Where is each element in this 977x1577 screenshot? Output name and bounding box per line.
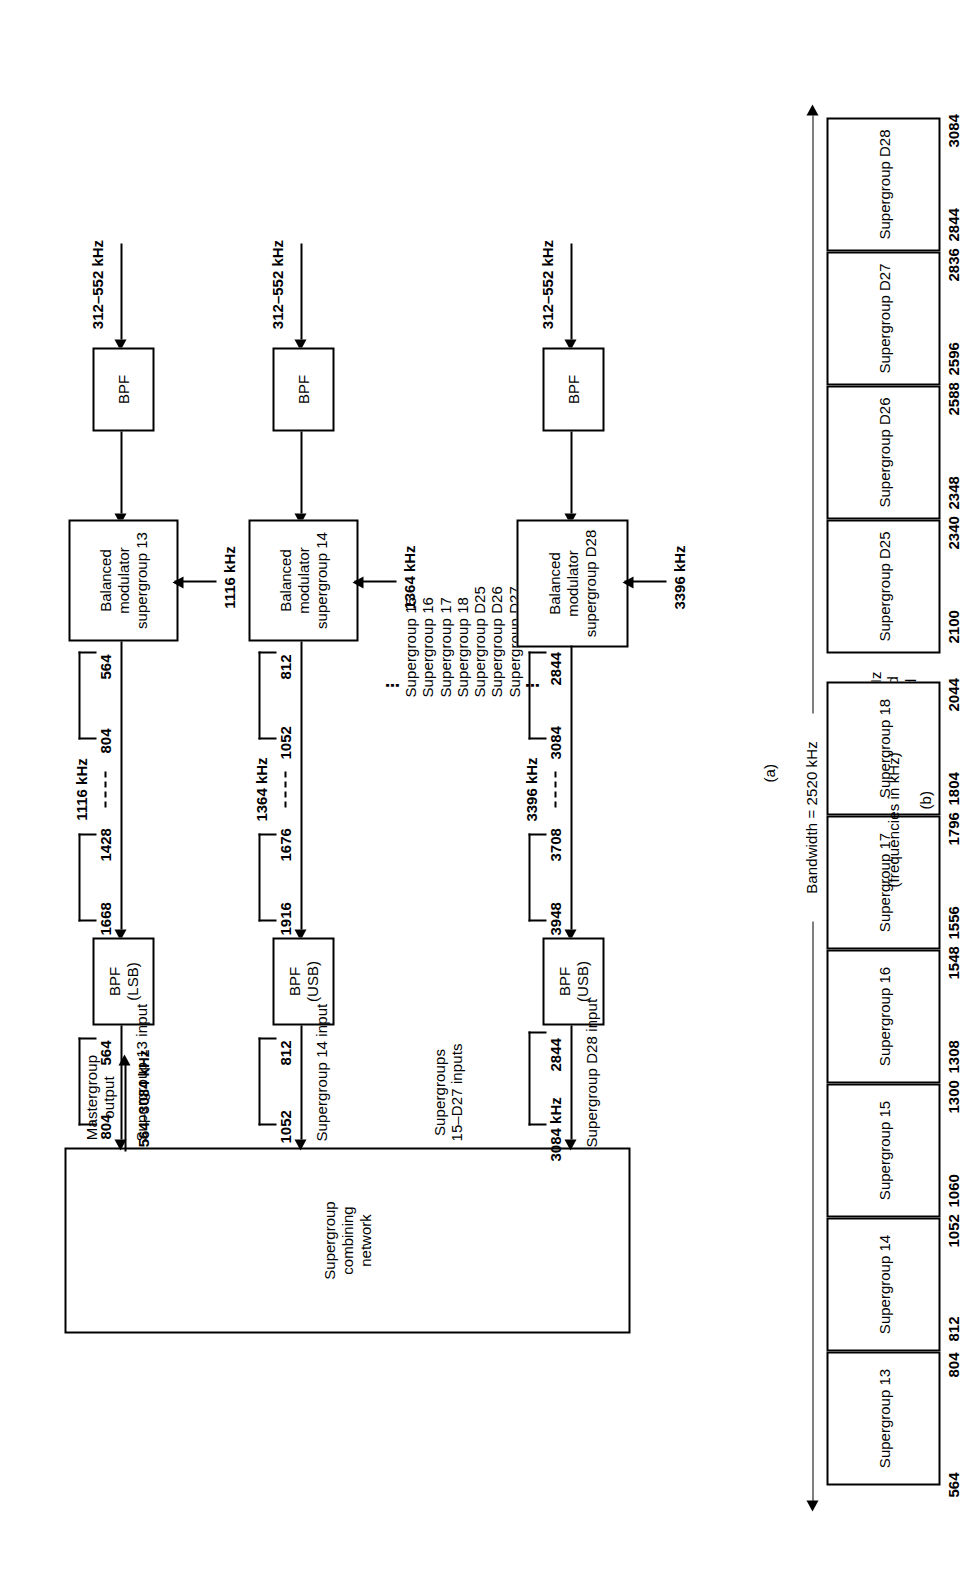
sgD28-lsb-low: 2844 <box>546 652 563 685</box>
spectrum-low-freq: 564 <box>944 1472 961 1497</box>
sg13-bpf-out-label: BPF (LSB) <box>105 962 140 1000</box>
spectrum-low-freq: 2596 <box>944 342 961 375</box>
sgD28-out-bracket <box>528 1031 546 1125</box>
sg14-lsb-high: 1052 <box>276 726 293 759</box>
spectrum-block: Supergroup D28 <box>826 117 940 251</box>
bandwidth-arrow-right <box>806 104 818 115</box>
spectrum-block-label: Supergroup 16 <box>875 966 892 1065</box>
spectrum-block-label: Supergroup D26 <box>875 397 892 507</box>
sgD28-usb-low: 3708 <box>546 828 563 861</box>
sg13-output-label: Supergroup 13 input <box>132 1003 149 1141</box>
sg14-carrier-arrowhead <box>352 576 363 588</box>
spectrum-high-freq: 2836 <box>944 248 961 281</box>
sg14-input-range: 312–552 kHz <box>268 229 285 339</box>
sgD28-bpf-in-box: BPF <box>542 347 604 431</box>
sgD28-bpf-in-label: BPF <box>564 374 582 403</box>
sgD28-bpf-to-mod-line <box>570 431 572 513</box>
sg14-mod-out-line <box>300 641 302 929</box>
sg14-lsb-low: 812 <box>276 654 293 679</box>
sgD28-usb-high: 3948 <box>546 902 563 935</box>
sgD28-carrier-label: 3396 kHz <box>670 517 687 637</box>
spectrum-low-freq: 1556 <box>944 906 961 939</box>
sg14-bpf-in-label: BPF <box>294 374 312 403</box>
sg14-carrier-tick <box>284 771 286 807</box>
sgD28-lsb-bracket <box>528 651 546 739</box>
spectrum-high-freq: 2588 <box>944 382 961 415</box>
sg13-lsb-bracket <box>78 651 96 739</box>
spectrum-block: Supergroup D26 <box>826 385 940 519</box>
spectrum-block: Supergroup 14 <box>826 1217 940 1351</box>
spectrum-block-label: Supergroup D27 <box>875 263 892 373</box>
sg13-out-bracket <box>78 1037 96 1125</box>
spectrum-block: Supergroup 15 <box>826 1083 940 1217</box>
sg14-out-line <box>300 1025 302 1139</box>
list-item: Supergroup D25 <box>470 527 487 697</box>
bandwidth-label: Bandwidth = 2520 kHz <box>802 717 819 917</box>
sg13-bpf-to-mod-line <box>120 431 122 513</box>
sgD28-out-high: 3084 kHz <box>546 1097 563 1161</box>
spectrum-block: Supergroup D25 <box>826 519 940 653</box>
part-b-caption: (b) <box>916 790 933 809</box>
sgD28-mod-out-line <box>570 645 572 929</box>
sg13-mod-out-line <box>120 641 122 929</box>
spectrum-block: Supergroup 17 <box>826 815 940 949</box>
part-a-caption: (a) <box>760 763 777 782</box>
bandwidth-line-right <box>812 115 813 713</box>
sg13-usb-low: 1428 <box>96 828 113 861</box>
middle-list-ellipsis-top: ⋮ <box>382 527 401 697</box>
spectrum-block-label: Supergroup 15 <box>875 1100 892 1199</box>
list-item: Supergroup 15 <box>401 527 418 697</box>
sgD28-out-low: 2844 <box>546 1038 563 1071</box>
sg14-balanced-modulator-box: Balanced modulator supergroup 14 <box>248 519 358 641</box>
sgD28-usb-bracket <box>528 833 546 921</box>
sg13-bpf-in-box: BPF <box>92 347 154 431</box>
spectrum-block-label: Supergroup 13 <box>875 1368 892 1467</box>
sgD28-lsb-high: 3084 <box>546 726 563 759</box>
spectrum-low-freq: 2100 <box>944 610 961 643</box>
spectrum-block: Supergroup D27 <box>826 251 940 385</box>
sg13-carrier-label: 1116 kHz <box>220 517 237 637</box>
combining-network-label: Supergroup combining network <box>320 1201 373 1279</box>
spectrum-low-freq: 2348 <box>944 476 961 509</box>
sgD28-bpf-out-label: BPF (USB) <box>555 961 590 1002</box>
spectrum-high-freq: 2340 <box>944 516 961 549</box>
sg13-carrier-tick <box>104 771 106 807</box>
spectrum-high-freq: 1548 <box>944 946 961 979</box>
middle-inputs-label: Supergroups 15–D27 inputs <box>430 1007 465 1177</box>
sg14-usb-bracket <box>258 833 276 921</box>
sgD28-carrier-tick-label: 3396 kHz <box>522 743 539 835</box>
spectrum-block: Supergroup 16 <box>826 949 940 1083</box>
sgD28-input-range: 312–552 kHz <box>538 229 555 339</box>
list-item: Supergroup 18 <box>453 527 470 697</box>
part-b-units-caption: (frequencies in kHz) <box>884 752 901 887</box>
sg13-input-line <box>120 243 122 339</box>
sgD28-output-label: Supergroup D28 input <box>582 998 599 1147</box>
spectrum-block-label: Supergroup D25 <box>875 531 892 641</box>
sg14-output-label: Supergroup 14 input <box>312 1003 329 1141</box>
sg13-out-high: 804 <box>96 1114 113 1139</box>
sg13-balanced-modulator-box: Balanced modulator supergroup 13 <box>68 519 178 641</box>
sg14-carrier-tick-label: 1364 kHz <box>252 743 269 835</box>
sg13-modulator-label: Balanced modulator supergroup 13 <box>96 532 149 629</box>
sg13-out-line <box>120 1025 122 1139</box>
sgD28-carrier-tick <box>554 771 556 807</box>
sgD28-input-line <box>570 243 572 339</box>
spectrum-high-freq: 1052 <box>944 1214 961 1247</box>
sg14-out-low: 812 <box>276 1040 293 1065</box>
spectrum-high-freq: 3084 <box>944 114 961 147</box>
spectrum-low-freq: 1308 <box>944 1040 961 1073</box>
sg14-input-line <box>300 243 302 339</box>
sg13-bpf-in-label: BPF <box>114 374 132 403</box>
sg14-out-arrowhead <box>294 1139 306 1150</box>
sg13-lsb-low: 564 <box>96 654 113 679</box>
sg13-out-arrowhead <box>114 1139 126 1150</box>
figure-stage: Supergroup combining network Mastergroup… <box>0 0 977 1577</box>
sg14-modulator-label: Balanced modulator supergroup 14 <box>276 532 329 629</box>
bandwidth-arrow-left <box>806 1500 818 1511</box>
bandwidth-line-left <box>812 921 813 1501</box>
spectrum-block-label: Supergroup 14 <box>875 1234 892 1333</box>
sg13-input-range: 312–552 kHz <box>88 229 105 339</box>
sgD28-carrier-arrowhead <box>622 576 633 588</box>
spectrum-low-freq: 1804 <box>944 772 961 805</box>
sgD28-out-arrowhead <box>564 1139 576 1150</box>
